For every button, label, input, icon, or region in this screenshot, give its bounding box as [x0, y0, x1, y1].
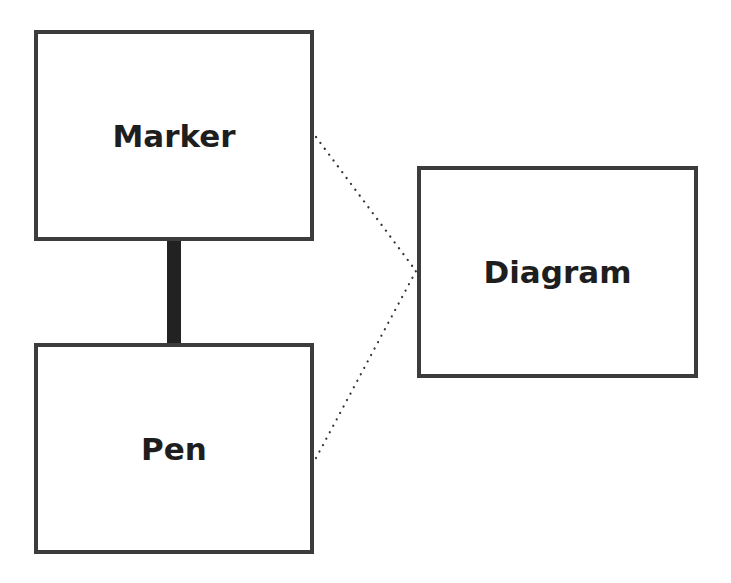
node-marker[interactable]: Marker: [34, 30, 314, 241]
node-diagram[interactable]: Diagram: [417, 166, 698, 378]
node-pen[interactable]: Pen: [34, 343, 314, 554]
edge-pen-diagram: [316, 271, 416, 458]
node-diagram-label: Diagram: [484, 254, 632, 290]
node-pen-label: Pen: [141, 431, 207, 467]
diagram-canvas: Marker Pen Diagram: [0, 0, 731, 583]
edge-marker-pen: [167, 241, 181, 343]
node-marker-label: Marker: [112, 118, 235, 154]
edge-marker-diagram: [316, 137, 416, 271]
